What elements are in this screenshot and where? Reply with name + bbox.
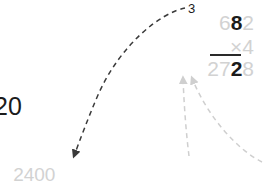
arrow-carry-to-three-hundred bbox=[74, 8, 185, 156]
worksheet-canvas: 3 682 ×4 2728 20 2400 2400 + 300 = 2700 … bbox=[0, 0, 271, 183]
arrow-two-thousand-to-product bbox=[183, 78, 189, 156]
multiplicand-digit-tens: 8 bbox=[231, 11, 243, 34]
equation-term-2700: 2700 bbox=[130, 181, 172, 183]
equation-term-300: 300 bbox=[77, 181, 109, 183]
equation-plus-1: + bbox=[55, 181, 77, 183]
product-row: 2728 bbox=[170, 57, 268, 81]
product-digit-hundreds: 7 bbox=[219, 57, 231, 80]
long-multiplication-block: 3 682 ×4 2728 bbox=[170, 0, 254, 74]
equation-equals-2: = bbox=[173, 181, 195, 183]
equation-term-2400: 2400 bbox=[13, 181, 55, 183]
clipped-number-left: 20 bbox=[0, 94, 22, 119]
equation-term-700: 700 bbox=[258, 181, 271, 183]
arrow-seven-hundred-to-product bbox=[192, 78, 262, 162]
equation-equals-1: = bbox=[109, 181, 131, 183]
equation-line: 2400 + 300 = 2700 = 2000 + 700 bbox=[0, 163, 271, 183]
equation-plus-2: + bbox=[237, 181, 259, 183]
equation-term-2000: 2000 bbox=[194, 181, 236, 183]
product-digit-thousands: 2 bbox=[207, 57, 219, 80]
multiplicand-digit-ones: 2 bbox=[242, 11, 254, 34]
product-digit-ones: 8 bbox=[242, 57, 254, 80]
multiplier-digit-ones: 4 bbox=[242, 35, 254, 58]
multiplicand-digit-hundreds: 6 bbox=[219, 11, 231, 34]
multiplication-rule bbox=[210, 54, 241, 56]
product-digit-tens: 2 bbox=[231, 57, 243, 80]
multiplicand-row: 682 bbox=[170, 11, 268, 35]
